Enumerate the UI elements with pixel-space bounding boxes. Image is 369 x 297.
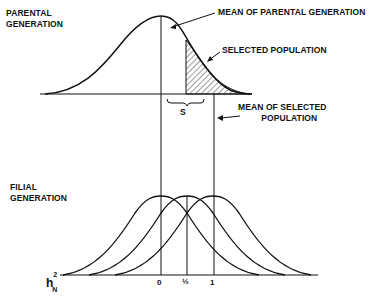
s-label: S [180, 107, 186, 118]
parental-generation-label: PARENTALGENERATION [6, 8, 63, 30]
h-sup: 2 [53, 271, 57, 278]
parental-distribution [40, 16, 252, 94]
filial-label-line2: GENERATION [10, 193, 67, 204]
mean-parental-label: MEAN OF PARENTAL GENERATION [218, 7, 366, 18]
filial-label-line1: FILIAL [10, 182, 67, 193]
tick-half: ½ [182, 277, 189, 286]
h-sub: N [52, 286, 57, 293]
filial-distributions [60, 196, 318, 275]
mean-selected-label: MEAN OF SELECTEDPOPULATION [238, 102, 327, 124]
filial-curve-h1 [115, 196, 311, 275]
mean-selected-line1: MEAN OF SELECTED [238, 102, 327, 113]
parental-label-line1: PARENTAL [6, 8, 63, 19]
selection-differential-brace [167, 99, 204, 106]
tick-1: 1 [210, 278, 214, 287]
selected-population-label: SELECTED POPULATION [222, 45, 327, 56]
mean-selected-line2: POPULATION [238, 113, 327, 124]
heritability-label: h2N [46, 276, 57, 291]
tick-0: 0 [157, 278, 161, 287]
parental-label-line2: GENERATION [6, 19, 63, 30]
filial-generation-label: FILIALGENERATION [10, 182, 67, 204]
